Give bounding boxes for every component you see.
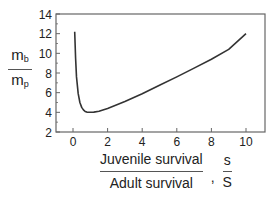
tick-marks: 24681012140246810 — [39, 8, 253, 150]
y-tick-label: 6 — [45, 86, 52, 100]
x-label-symbol-bar — [223, 171, 232, 172]
x-label-symbol-fraction: s S — [223, 153, 232, 190]
x-axis-label: Juvenile survival Adult survival , s S — [100, 152, 232, 191]
y-tick-label: 2 — [45, 126, 52, 140]
y-label-numerator: mb — [6, 47, 34, 67]
x-tick-label: 8 — [208, 135, 215, 149]
x-label-ratio-fraction: Juvenile survival Adult survival — [100, 152, 203, 191]
x-tick-label: 6 — [173, 135, 180, 149]
x-tick-label: 2 — [104, 135, 111, 149]
y-tick-label: 8 — [45, 67, 52, 81]
x-label-symbol-numerator: s — [224, 153, 231, 168]
x-tick-label: 4 — [139, 135, 146, 149]
axes-frame — [56, 14, 265, 132]
y-tick-label: 4 — [45, 106, 52, 120]
axes — [56, 14, 265, 132]
x-label-separator: , — [211, 169, 215, 185]
x-label-denominator: Adult survival — [110, 176, 193, 191]
y-axis-label: mb mp — [6, 47, 34, 92]
x-label-fraction-bar — [100, 171, 203, 172]
x-tick-label: 10 — [239, 135, 253, 149]
x-tick-label: 0 — [70, 135, 77, 149]
x-label-symbol-denominator: S — [223, 175, 232, 190]
data-series-line — [75, 32, 246, 113]
y-tick-label: 12 — [39, 27, 53, 41]
y-tick-label: 10 — [39, 47, 53, 61]
y-label-denominator: mp — [6, 72, 34, 92]
y-tick-label: 14 — [39, 8, 53, 22]
x-label-numerator: Juvenile survival — [100, 152, 203, 167]
y-label-fraction-bar — [8, 69, 32, 70]
